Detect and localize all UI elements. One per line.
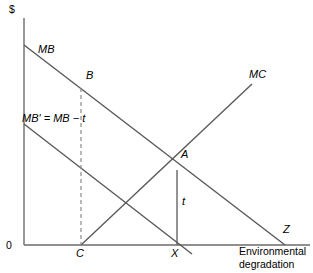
mc-curve-label: MC [249, 69, 266, 81]
diagram-canvas [0, 0, 313, 273]
economics-diagram: $ 0 MB MB' = MB − t MC B A C X Z t Envir… [0, 0, 313, 273]
mb-curve-label: MB [38, 44, 55, 56]
point-label-b: B [86, 70, 93, 82]
mb-prime-curve [24, 124, 192, 254]
point-label-x: X [171, 248, 178, 260]
y-axis-label: $ [9, 4, 15, 15]
tax-wedge-label: t [182, 196, 185, 208]
mb-prime-curve-label: MB' = MB − t [22, 113, 85, 125]
point-label-a: A [181, 149, 188, 161]
x-axis-label-line2: degradation [239, 259, 294, 270]
mb-curve [24, 45, 285, 245]
origin-label: 0 [6, 240, 12, 251]
x-axis-label-line1: Environmental [239, 246, 306, 257]
point-label-c: C [76, 248, 84, 260]
point-label-z: Z [283, 224, 290, 236]
